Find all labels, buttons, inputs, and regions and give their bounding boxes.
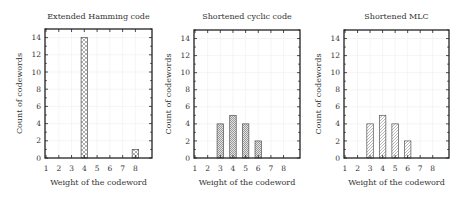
y-tick-label: 10: [330, 68, 340, 77]
chart-title: Extended Hamming code: [47, 12, 150, 21]
y-tick-label: 8: [185, 85, 190, 94]
x-tick-label: 1: [193, 164, 198, 173]
y-tick-label: 4: [36, 119, 41, 128]
x-tick-label: 8: [133, 164, 138, 173]
x-tick-label: 7: [120, 164, 125, 173]
bar-weight-3: [217, 124, 224, 158]
plot-frame: [45, 29, 152, 158]
y-axis-label: Count of codewords: [15, 53, 24, 134]
y-tick-label: 14: [330, 34, 340, 43]
y-tick-label: 6: [335, 102, 340, 111]
x-tick-label: 3: [69, 164, 74, 173]
y-tick-label: 8: [36, 85, 41, 94]
y-tick-label: 2: [36, 136, 41, 145]
bar-weight-4: [379, 115, 386, 158]
y-tick-label: 6: [185, 102, 190, 111]
chart-title: Shortened MLC: [364, 12, 428, 21]
chart-title: Shortened cyclic code: [202, 12, 292, 21]
x-tick-label: 6: [107, 164, 112, 173]
y-tick-label: 12: [330, 51, 340, 60]
y-tick-label: 12: [180, 51, 190, 60]
x-tick-label: 1: [343, 164, 348, 173]
chart-panel-2: 0246810121412345678Shortened cyclic code…: [164, 12, 300, 187]
y-tick-label: 0: [335, 154, 340, 163]
y-tick-label: 14: [31, 33, 41, 42]
chart-panel-3: 0246810121412345678Shortened MLCWeight o…: [314, 12, 449, 187]
y-axis-label: Count of codewords: [314, 53, 323, 134]
x-tick-label: 5: [243, 164, 248, 173]
x-tick-label: 7: [418, 164, 423, 173]
y-axis-label: Count of codewords: [164, 53, 173, 134]
y-tick-label: 12: [31, 50, 41, 59]
x-tick-label: 3: [218, 164, 223, 173]
x-axis-label: Weight of the codeword: [348, 178, 445, 187]
y-tick-label: 0: [185, 154, 190, 163]
x-tick-label: 6: [256, 164, 261, 173]
y-tick-label: 2: [335, 137, 340, 146]
x-axis-label: Weight of the codeword: [50, 178, 147, 187]
x-tick-label: 7: [269, 164, 274, 173]
chart-panel-1: 0246810121412345678Extended Hamming code…: [15, 12, 152, 187]
bar-weight-5: [242, 124, 249, 158]
bar-weight-5: [392, 124, 399, 158]
x-tick-label: 4: [380, 164, 385, 173]
x-tick-label: 5: [95, 164, 100, 173]
x-tick-label: 2: [205, 164, 210, 173]
y-tick-label: 6: [36, 102, 41, 111]
x-tick-label: 8: [430, 164, 435, 173]
y-tick-label: 0: [36, 154, 41, 163]
y-tick-label: 4: [335, 119, 340, 128]
x-tick-label: 2: [355, 164, 360, 173]
y-tick-label: 10: [180, 68, 190, 77]
x-tick-label: 4: [231, 164, 236, 173]
x-tick-label: 1: [44, 164, 49, 173]
x-tick-label: 2: [56, 164, 61, 173]
chart-canvas: 0246810121412345678Extended Hamming code…: [0, 0, 470, 197]
x-tick-label: 4: [82, 164, 87, 173]
x-tick-label: 3: [368, 164, 373, 173]
bar-weight-4: [230, 115, 237, 158]
x-tick-label: 8: [281, 164, 286, 173]
x-tick-label: 6: [405, 164, 410, 173]
bar-weight-4: [81, 38, 88, 158]
charts-root: 0246810121412345678Extended Hamming code…: [15, 12, 449, 187]
x-tick-label: 5: [393, 164, 398, 173]
bar-weight-3: [367, 124, 374, 158]
y-tick-label: 4: [185, 119, 190, 128]
grid: [45, 29, 152, 158]
y-tick-label: 10: [31, 68, 41, 77]
y-tick-label: 8: [335, 85, 340, 94]
figure: 0246810121412345678Extended Hamming code…: [0, 0, 470, 197]
y-tick-label: 14: [180, 34, 190, 43]
y-tick-label: 2: [185, 137, 190, 146]
x-axis-label: Weight of the codeword: [199, 178, 296, 187]
